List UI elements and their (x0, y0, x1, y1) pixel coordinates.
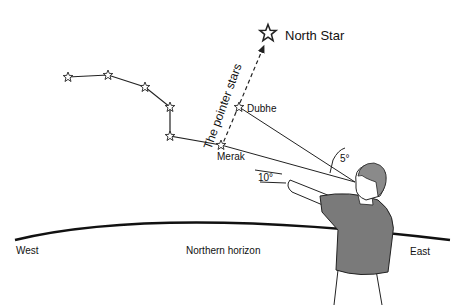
northern-horizon-label: Northern horizon (186, 245, 260, 256)
north-star-icon (260, 25, 276, 41)
sight-lines (221, 107, 355, 183)
west-label: West (16, 245, 39, 256)
angle-5-label: 5° (340, 153, 350, 164)
dubhe-label: Dubhe (247, 103, 277, 114)
observer-figure (288, 163, 393, 305)
star-icon (63, 72, 73, 82)
merak-label: Merak (217, 151, 246, 162)
star-icon (165, 131, 175, 141)
north-star-label: North Star (285, 28, 345, 43)
east-label: East (410, 246, 430, 257)
north-star-diagram: North Star The pointer stars Dubhe Merak… (0, 0, 460, 305)
star-icons (63, 25, 276, 150)
angle-10-label: 10° (258, 172, 273, 183)
dubhe-star-icon (234, 102, 244, 112)
star-icon (103, 70, 113, 80)
diagram-canvas: North Star The pointer stars Dubhe Merak… (0, 0, 460, 305)
